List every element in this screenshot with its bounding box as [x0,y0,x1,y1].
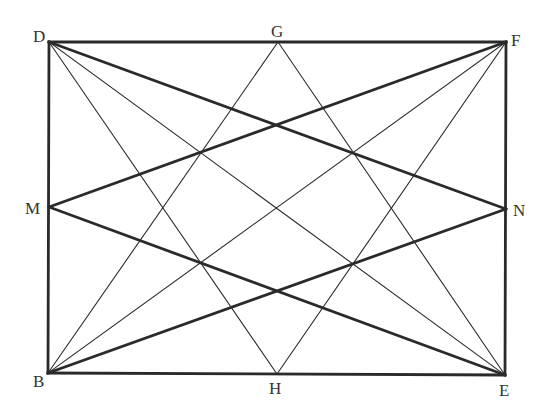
point-label-D: D [33,28,45,45]
point-label-N: N [513,202,525,219]
point-label-G: G [271,23,283,40]
point-label-B: B [33,373,44,390]
thick-line-BN [48,209,506,373]
point-label-M: M [25,200,40,217]
point-label-E: E [499,382,509,399]
thick-line-EB [48,373,505,375]
line-figure [0,0,550,416]
geometry-diagram: DGFMNBHE [0,0,550,416]
point-label-H: H [269,380,281,397]
point-label-F: F [511,32,520,49]
